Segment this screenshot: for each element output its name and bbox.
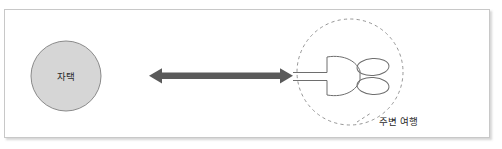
home-node-label: 자택 <box>57 71 75 82</box>
home-node[interactable]: 자택 <box>31 41 101 111</box>
diagram-canvas: 자택 <box>5 10 491 139</box>
figure-panel: 자택 <box>4 9 490 138</box>
tree-plant-icon <box>293 56 390 95</box>
arrow-shaft <box>157 73 281 80</box>
caption-leader-line <box>357 113 371 122</box>
plant-leaf-lower <box>356 76 389 95</box>
plant-stem-upper <box>293 57 327 73</box>
bidirectional-arrow <box>149 68 293 83</box>
destination-node[interactable]: 주변 여행 <box>293 19 418 127</box>
arrow-head-right <box>280 68 293 83</box>
plant-canopy <box>327 56 360 95</box>
plant-leaf-upper <box>356 57 389 76</box>
clipped-top-text-row: ᅳ ᅳ ᅳ ᅳᅳ <box>0 0 502 5</box>
destination-node-caption: 주변 여행 <box>379 116 418 127</box>
arrow-head-left <box>149 68 162 83</box>
clipped-top-text: ᅳ ᅳ ᅳ ᅳᅳ <box>4 0 87 4</box>
